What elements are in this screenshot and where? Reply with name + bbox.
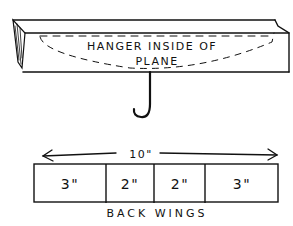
section-4-label: 3"	[233, 176, 251, 192]
section-1-label: 3"	[61, 176, 79, 192]
hook-icon	[134, 72, 150, 117]
dimension-arrow	[43, 149, 277, 161]
diagram-canvas: HANGER INSIDE OF PLANE 10" 3" 2" 2" 3" B…	[0, 0, 293, 226]
beam-label-line1: HANGER INSIDE OF	[87, 40, 217, 53]
beam-label-line2: PLANE	[135, 55, 178, 68]
back-wings-caption: BACK WINGS	[106, 207, 207, 220]
section-2-label: 2"	[121, 176, 139, 192]
section-3-label: 2"	[171, 176, 189, 192]
dimension-label: 10"	[129, 148, 153, 161]
